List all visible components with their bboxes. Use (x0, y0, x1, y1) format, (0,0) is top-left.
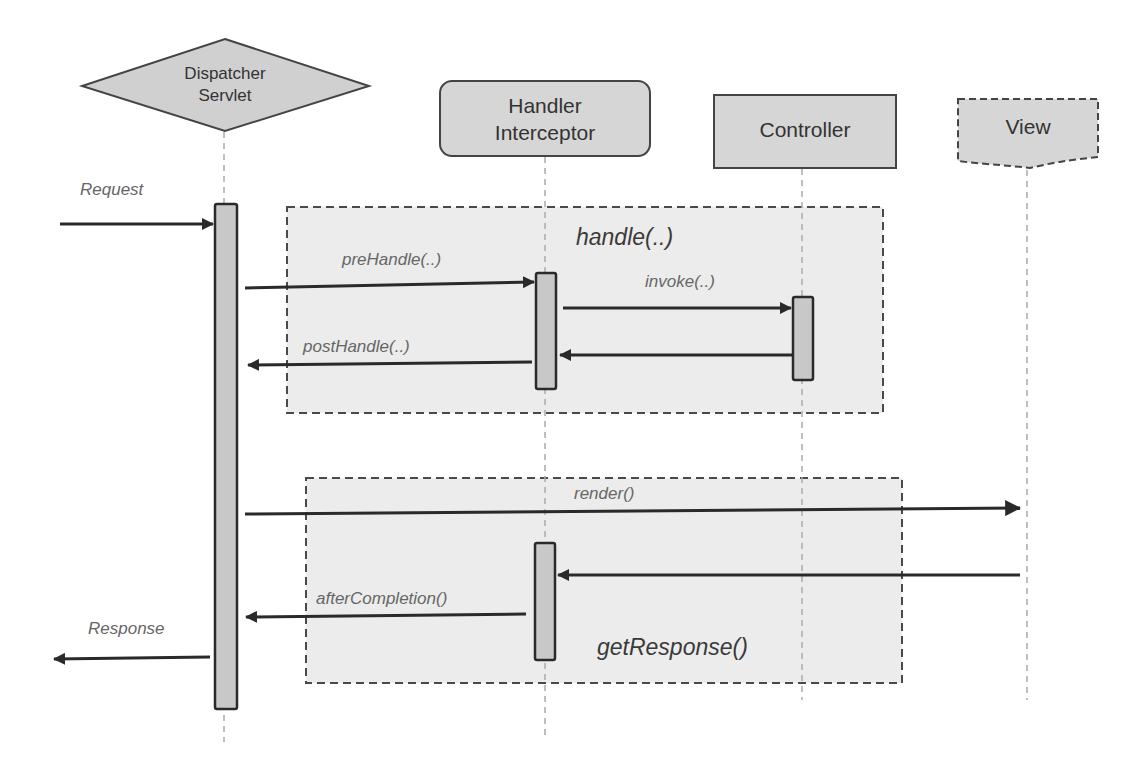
message-invoke-label: invoke(..) (645, 272, 715, 292)
message-render-label: render() (574, 484, 634, 504)
participant-controller-label: Controller (714, 118, 896, 142)
participant-dispatcher: Dispatcher Servlet (150, 63, 300, 107)
activation-interceptor-1 (536, 273, 556, 389)
message-response-label: Response (88, 619, 165, 639)
message-posthandle-label: postHandle(..) (303, 337, 410, 357)
message-aftercompletion-label: afterCompletion() (316, 589, 447, 609)
activation-controller (793, 297, 813, 380)
participant-interceptor-line2: Interceptor (440, 119, 650, 146)
participant-view: View (958, 115, 1098, 139)
arrow-response (54, 657, 210, 659)
activation-dispatcher (215, 204, 237, 709)
participant-dispatcher-line2: Servlet (150, 85, 300, 107)
activation-interceptor-2 (535, 543, 555, 660)
participant-controller: Controller (714, 118, 896, 142)
frame-getresponse-label: getResponse() (597, 634, 748, 661)
frame-handle-label: handle(..) (576, 224, 673, 251)
message-prehandle-label: preHandle(..) (342, 250, 441, 270)
participant-view-label: View (958, 115, 1098, 139)
participant-interceptor-line1: Handler (440, 92, 650, 119)
message-request-label: Request (80, 180, 143, 200)
participant-interceptor: Handler Interceptor (440, 92, 650, 146)
participant-dispatcher-line1: Dispatcher (150, 63, 300, 85)
